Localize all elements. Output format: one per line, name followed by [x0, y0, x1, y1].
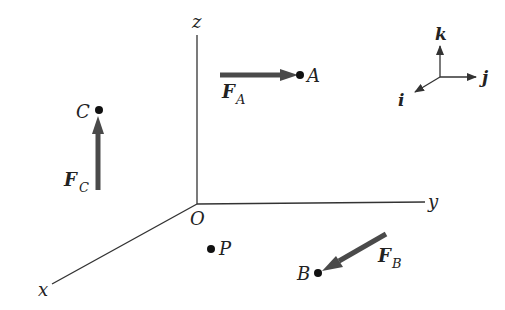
- force-c-subscript: C: [79, 180, 89, 195]
- origin-label: O: [190, 208, 205, 229]
- j-label: j: [479, 67, 489, 87]
- i-vector: [415, 77, 440, 92]
- x-axis-label: x: [38, 279, 48, 300]
- force-b-subscript: B: [391, 256, 402, 271]
- point-a: [296, 71, 304, 79]
- point-p: [207, 245, 215, 253]
- point-p-label: P: [218, 238, 232, 259]
- point-c: [95, 106, 103, 114]
- force-a-symbol: F: [221, 81, 236, 102]
- y-axis-label: y: [427, 191, 439, 212]
- point-a-label: A: [305, 65, 320, 86]
- force-b-symbol: F: [377, 245, 392, 266]
- unit-vector-triad: k j i: [398, 24, 489, 110]
- force-b-group: B F B: [296, 234, 402, 284]
- k-label: k: [435, 24, 447, 44]
- point-b-label: B: [296, 263, 310, 284]
- point-p-group: P: [207, 238, 232, 259]
- force-diagram: z y x O A F A C F C P B F B k: [0, 0, 505, 310]
- z-axis-label: z: [191, 11, 202, 32]
- x-axis: [52, 204, 197, 284]
- force-c-symbol: F: [63, 169, 78, 190]
- point-c-label: C: [76, 101, 90, 122]
- force-a-group: A F A: [220, 65, 320, 107]
- force-c-arrow-head: [92, 116, 104, 134]
- y-axis: [197, 202, 425, 204]
- force-a-subscript: A: [235, 92, 245, 107]
- point-b: [314, 269, 322, 277]
- force-a-arrow-head: [280, 69, 298, 81]
- force-c-group: C F C: [63, 101, 104, 195]
- i-label: i: [398, 90, 404, 110]
